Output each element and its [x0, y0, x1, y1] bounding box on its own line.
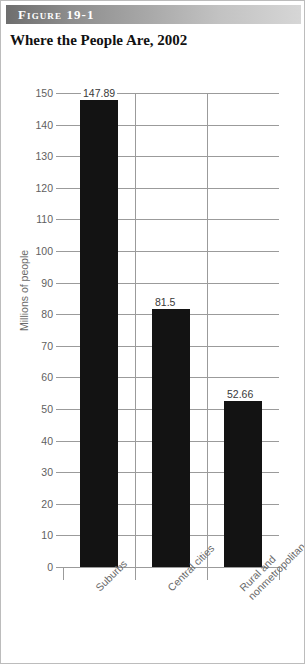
y-axis-tick-label: 60	[41, 372, 53, 382]
y-axis-tick	[56, 188, 63, 189]
y-axis-tick-label: 120	[35, 183, 53, 193]
y-axis-tick-label: 40	[41, 436, 53, 446]
y-axis-tick-label-box: 120	[1, 183, 53, 193]
y-axis-tick	[56, 535, 63, 536]
y-axis-tick	[56, 283, 63, 284]
bar-value-label: 81.5	[153, 296, 177, 309]
y-axis-tick-label: 30	[41, 467, 53, 477]
y-axis-tick-label-box: 150	[1, 88, 53, 98]
y-axis-tick-label-box: 30	[1, 467, 53, 477]
y-axis-tick	[56, 567, 63, 568]
bar	[224, 401, 262, 567]
y-axis-tick-label: 10	[41, 530, 53, 540]
y-axis-tick	[56, 441, 63, 442]
y-axis-tick-label: 100	[35, 246, 53, 256]
y-axis-tick	[56, 156, 63, 157]
bar-value-label: 147.89	[81, 87, 117, 100]
chart-plot: 1501401301201101009080706050403020100 14…	[1, 1, 305, 664]
bar-value-label: 52.66	[225, 388, 255, 401]
x-axis-tick	[63, 568, 64, 580]
y-axis-tick-label: 80	[41, 309, 53, 319]
bar	[152, 309, 190, 567]
x-axis-tick	[135, 568, 136, 580]
y-axis-tick	[56, 377, 63, 378]
x-axis-tick	[207, 568, 208, 580]
gridline-vertical	[207, 93, 208, 567]
figure-container: Figure 19-1 Where the People Are, 2002 1…	[0, 0, 305, 664]
y-axis-tick	[56, 346, 63, 347]
bar	[80, 100, 118, 567]
y-axis-title: Millions of people	[18, 250, 30, 331]
y-axis-tick-label-box: 50	[1, 404, 53, 414]
y-axis-tick-label: 130	[35, 151, 53, 161]
y-axis-tick-label: 20	[41, 499, 53, 509]
y-axis-tick	[56, 504, 63, 505]
y-axis-tick-label-box: 20	[1, 499, 53, 509]
y-axis-tick-label: 0	[47, 562, 53, 572]
y-axis-tick-label-box: 110	[1, 214, 53, 224]
y-axis-tick	[56, 93, 63, 94]
y-axis-tick	[56, 314, 63, 315]
y-axis-tick	[56, 251, 63, 252]
gridline-vertical	[135, 93, 136, 567]
y-axis-tick-label-box: 0	[1, 562, 53, 572]
y-axis-tick-label: 50	[41, 404, 53, 414]
y-axis-tick-label-box: 130	[1, 151, 53, 161]
y-axis-tick-label-box: 40	[1, 436, 53, 446]
y-axis-tick-label: 110	[36, 214, 53, 224]
y-axis-tick	[56, 219, 63, 220]
y-axis-tick-label: 90	[41, 278, 53, 288]
y-axis-tick	[56, 125, 63, 126]
y-axis-tick-label-box: 60	[1, 372, 53, 382]
x-axis-line	[56, 567, 280, 568]
y-axis-tick	[56, 409, 63, 410]
y-axis-tick-label: 140	[35, 120, 53, 130]
y-axis-tick-label: 70	[41, 341, 53, 351]
y-axis-tick-label-box: 140	[1, 120, 53, 130]
y-axis-tick	[56, 472, 63, 473]
y-axis-tick-label: 150	[35, 88, 53, 98]
y-axis-tick-label-box: 70	[1, 341, 53, 351]
y-axis-tick-label-box: 10	[1, 530, 53, 540]
